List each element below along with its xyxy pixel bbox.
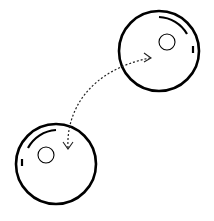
nucleus-circle [159, 34, 175, 50]
cell-top-right [119, 11, 199, 91]
nucleus-circle [38, 147, 54, 163]
cell-membrane-circle [16, 124, 96, 204]
dotted-double-arrow [63, 53, 151, 149]
cell-membrane-circle [119, 11, 199, 91]
cell-transfer-diagram [0, 0, 214, 221]
arrow-curve [68, 58, 150, 148]
cell-bottom-left [16, 124, 96, 204]
arrowhead-right-icon [144, 53, 151, 62]
